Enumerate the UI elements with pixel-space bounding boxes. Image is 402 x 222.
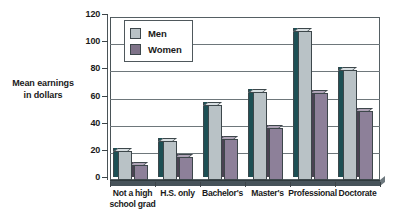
y-tick-mark-0 xyxy=(102,177,108,178)
y-tick-label-60: 60 xyxy=(90,91,100,101)
bar-women-1 xyxy=(179,157,193,180)
y-tick-mark-100 xyxy=(102,41,108,42)
bar-men-0 xyxy=(118,151,132,180)
chart-legend: Men Women xyxy=(124,20,193,62)
bar-front-face xyxy=(208,105,222,180)
y-axis-line-outer xyxy=(107,14,108,180)
y-tick-mark-20 xyxy=(102,150,108,151)
legend-swatch-women-icon xyxy=(130,44,141,55)
bar-women-2 xyxy=(224,139,238,180)
bar-women-4 xyxy=(314,93,328,180)
y-axis-title-line-1: Mean earnings xyxy=(6,78,80,90)
bar-front-face xyxy=(253,92,267,180)
y-tick-label-40: 40 xyxy=(90,118,100,128)
bar-front-face xyxy=(179,157,193,180)
bar-men-2 xyxy=(208,105,222,180)
bar-front-face xyxy=(269,128,283,180)
bar-front-face xyxy=(118,151,132,180)
y-tick-label-0: 0 xyxy=(95,172,100,182)
y-tick-label-120: 120 xyxy=(86,9,100,19)
legend-label-women: Women xyxy=(148,44,182,55)
x-category-label-line: Doctorate xyxy=(329,188,386,199)
y-tick-label-80: 80 xyxy=(90,63,100,73)
bar-front-face xyxy=(314,93,328,180)
bar-chart-figure: Mean earnings in dollars 020406080100120… xyxy=(0,0,402,222)
bar-men-4 xyxy=(298,31,312,180)
bar-women-3 xyxy=(269,128,283,180)
bar-men-5 xyxy=(343,70,357,180)
y-tick-label-20: 20 xyxy=(90,145,100,155)
x-tick-1 xyxy=(200,182,201,187)
y-tick-label-100: 100 xyxy=(86,36,100,46)
x-tick-2 xyxy=(245,182,246,187)
bar-men-1 xyxy=(163,141,177,180)
legend-entry-women: Women xyxy=(130,41,182,57)
bar-women-5 xyxy=(359,111,373,180)
x-category-label-line: school grad xyxy=(104,199,161,210)
x-category-label-5: Doctorate xyxy=(329,188,386,199)
bar-front-face xyxy=(134,165,148,180)
y-tick-mark-120 xyxy=(102,14,108,15)
x-tick-4 xyxy=(335,182,336,187)
y-axis-title-line-2: in dollars xyxy=(6,90,80,102)
chart-floor xyxy=(110,180,384,186)
bar-front-face xyxy=(224,139,238,180)
x-tick-5 xyxy=(380,182,381,187)
x-axis-category-labels: Not a highschool gradH.S. onlyBachelor's… xyxy=(110,188,384,218)
x-tick-3 xyxy=(290,182,291,187)
bar-women-0 xyxy=(134,165,148,180)
bar-men-3 xyxy=(253,92,267,180)
bar-front-face xyxy=(359,111,373,180)
y-tick-mark-80 xyxy=(102,68,108,69)
legend-entry-men: Men xyxy=(130,25,182,41)
legend-swatch-men-icon xyxy=(130,28,141,39)
y-tick-mark-40 xyxy=(102,123,108,124)
x-tick-start xyxy=(110,182,111,187)
bar-front-face xyxy=(298,31,312,180)
bar-front-face xyxy=(343,70,357,180)
x-tick-0 xyxy=(155,182,156,187)
y-tick-mark-60 xyxy=(102,96,108,97)
legend-label-men: Men xyxy=(148,28,167,39)
y-axis-title: Mean earnings in dollars xyxy=(6,78,80,101)
bar-front-face xyxy=(163,141,177,180)
